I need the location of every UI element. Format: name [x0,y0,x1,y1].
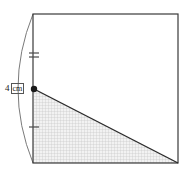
geometry-figure: 4cm [0,0,190,176]
vertex-point-dot [31,86,37,92]
length-value: 4 [5,83,10,93]
length-label-4cm: 4cm [5,84,24,93]
figure-canvas [0,0,190,176]
length-unit: cm [11,83,25,94]
